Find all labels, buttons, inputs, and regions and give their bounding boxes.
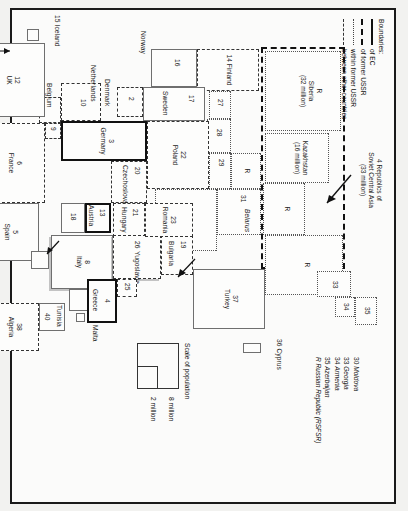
netherlands-name: Netherlands [89,65,97,102]
country-denmark [117,87,143,117]
key-name-russia: Russian Republic (RSFSR) [315,364,322,444]
key-name-armenia: Armenia [334,366,341,391]
cyprus-label: 36 Cyprus [275,339,283,370]
russia-caucasus-code: R [303,235,311,295]
spain-code: 5 [11,203,19,261]
denmark-code: 2 [128,97,135,101]
kazakhstan-name: Kazakhstan [301,133,309,183]
uk-code: 12 [13,43,21,117]
scale-box-2-million [137,366,158,389]
legend-entry-ussr: of former USSR [358,19,366,119]
austria-code: 13 [99,209,106,216]
country-iceland [27,29,39,41]
germany-name: Germany [99,121,107,161]
key-name-azerbaijan: Azerbaijan [324,366,331,397]
belarus-name: Belarus [243,209,251,232]
sweden-code: 17 [188,95,195,102]
germany-labels: 3 Germany [99,121,115,161]
romania-labels: 23 Romania [161,203,177,237]
algeria-code: 38 [15,303,23,351]
kazakhstan-labels: Kazakhstan (16 million) [293,133,309,183]
siberia-code: R [315,51,323,131]
key-name-georgia: Georgia [343,366,350,389]
turkey-code: 37 [231,269,239,329]
estonia-code: 27 [217,99,224,106]
scale-label-2-million: 2 million [149,397,157,421]
key-item-russia: R Russian Republic (RSFSR) [313,357,323,444]
bulgaria-code: 19 [180,241,187,248]
algeria-name: Algeria [7,303,15,351]
spain-labels: 5 Spain [3,203,19,261]
norway-name: Norway [139,31,147,54]
key-item-moldova: 30 Moldova [351,357,361,444]
legend-swatch-within-ussr-icon [353,19,354,45]
norway-code: 16 [174,59,181,66]
poland-labels: 22 Poland [171,121,187,189]
poland-name: Poland [171,121,179,189]
key-code-azerbaijan: 35 [324,357,331,364]
key-name-moldova: Moldova [353,366,360,391]
key-code-armenia: 34 [334,357,341,364]
hungary-code: 21 [132,209,139,216]
legend-swatch-ussr-icon [361,19,363,45]
tunisia-name: Tunisia [55,305,63,327]
italy-name: Italy [75,235,83,289]
legend-label-ec: of EC [368,49,376,66]
population-scale-title: Scale of population [183,343,191,423]
iceland-label: 15 Iceland [53,15,61,46]
population-scale-legend: Scale of population 8 million 2 million [135,343,191,423]
central-asia-annotation: 4 Republics of Soviet Central Asia (33 m… [359,125,383,235]
austria-name: Austria [87,205,95,226]
france-labels: 6 France [7,123,23,203]
armenia-code: 34 [343,303,350,310]
central-asia-line3: (33 million) [359,125,367,235]
romania-code: 23 [169,203,177,237]
kazakhstan-population: (16 million) [293,133,301,183]
ireland-pointer-icon [0,45,11,59]
malta-name: Malta [91,325,99,342]
lithuania-code: 29 [218,159,225,166]
legend-entry-within-ussr: within former USSR [349,19,357,119]
denmark-name: Denmark [103,79,111,106]
greece-code: 4 [104,299,111,303]
country-code-key: 30 Moldova 33 Georgia 34 Armenia 35 Azer… [313,357,361,444]
legend-swatch-other-icon [343,19,344,45]
legend-label-within-ussr: within former USSR [349,49,357,107]
france-name: France [7,123,15,203]
country-luxembourg [45,123,61,139]
country-czechoslovakia [111,161,147,203]
germany-code: 3 [107,121,115,161]
boundaries-legend-title: Boundaries: [377,19,385,119]
key-code-russia: R [315,357,322,362]
rotated-map-canvas: Boundaries: of EC of former USSR within … [15,13,391,499]
key-code-georgia: 33 [343,357,350,364]
legend-entry-ec: of EC [368,19,376,119]
latvia-code: 28 [216,129,223,136]
romania-name: Romania [161,203,169,237]
azerbaijan-code: 35 [364,307,371,314]
spain-name: Spain [3,203,11,261]
country-norway [151,49,197,87]
country-hungary [113,203,145,237]
country-malta [76,313,85,322]
switzerland-code: 18 [70,213,77,220]
legend-label-ussr: of former USSR [358,49,366,96]
poland-code: 22 [179,121,187,189]
algeria-labels: 38 Algeria [7,303,23,351]
turkey-pointer-icon [173,257,197,283]
country-sweden [143,87,205,121]
czechoslovakia-code: 20 [134,167,141,174]
scale-label-8-million: 8 million [167,397,175,421]
siberia-population: (32 million) [299,51,307,131]
siberia-name: Siberia [307,51,315,131]
siberia-labels: R Siberia (32 million) [299,51,323,131]
belarus-code: 31 [240,195,247,202]
greece-name: Greece [91,289,99,311]
georgia-code: 33 [332,281,339,288]
country-belarus [217,189,261,235]
france-code: 6 [15,123,23,203]
sardinia-pointer-icon [43,239,61,259]
key-item-armenia: 34 Armenia [332,357,342,444]
central-asia-line2: Soviet Central Asia [367,125,375,235]
key-code-moldova: 30 [353,357,360,364]
